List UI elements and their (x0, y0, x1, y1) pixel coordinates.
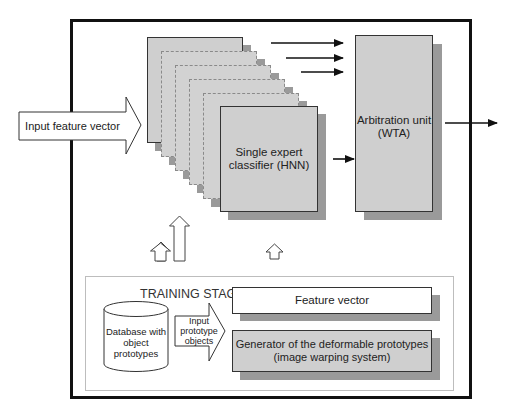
generator-label-line2: (image warping system) (274, 351, 391, 364)
database-label-line1: Database with (106, 326, 166, 337)
input-prototype-objects-label: Input prototype objects (178, 316, 220, 346)
input-prototype-line3: objects (185, 336, 214, 346)
database-label-line2: object prototypes (104, 337, 168, 359)
generator-label-line1: Generator of the deformable prototypes (236, 338, 429, 351)
feature-vector-box: Feature vector (232, 287, 432, 314)
input-prototype-line1: Input (189, 316, 209, 326)
database-label: Database with object prototypes (104, 326, 168, 359)
generator-box: Generator of the deformable prototypes (… (232, 330, 432, 372)
input-prototype-line2: prototype (180, 326, 218, 336)
